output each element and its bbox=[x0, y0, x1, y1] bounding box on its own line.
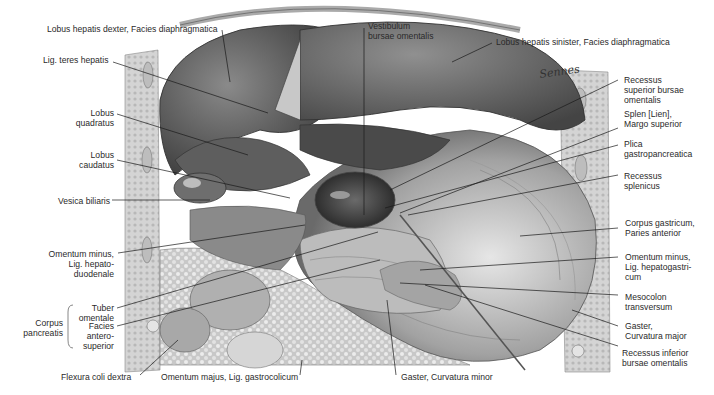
label-splen: Splen [Lien], Margo superior bbox=[624, 109, 682, 129]
label-omentum-minus-hepatogastricum: Omentum minus, Lig. hepatogastri- cum bbox=[625, 252, 691, 282]
label-tuber-omentale: Tuber omentale bbox=[70, 303, 114, 323]
anatomy-figure: Sennes Lobu bbox=[0, 0, 714, 395]
bursa-omentalis-opening bbox=[315, 172, 395, 228]
label-facies-anterosuperior: Facies antero- superior bbox=[70, 321, 114, 351]
label-lobus-caudatus: Lobus caudatus bbox=[70, 150, 114, 170]
label-vesica-biliaris: Vesica biliaris bbox=[40, 196, 110, 206]
label-omentum-majus: Omentum majus, Lig. gastrocolicum bbox=[161, 372, 298, 382]
label-recessus-superior: Recessus superior bursae omentalis bbox=[624, 75, 684, 105]
label-vestibulum: Vestibulum bursae omentalis bbox=[368, 21, 433, 41]
label-lobus-quadratus: Lobus quadratus bbox=[70, 108, 114, 128]
label-gaster-curvatura-minor: Gaster, Curvatura minor bbox=[401, 372, 493, 382]
gallbladder bbox=[174, 173, 226, 203]
label-plica: Plica gastropancreatica bbox=[624, 139, 692, 159]
label-lobus-hepatis-dexter: Lobus hepatis dexter, Facies diaphragmat… bbox=[47, 24, 218, 34]
label-gaster-curvatura-major: Gaster, Curvatura major bbox=[625, 321, 687, 341]
label-mesocolon: Mesocolon transversum bbox=[625, 292, 672, 312]
label-recessus-splenicus: Recessus splenicus bbox=[624, 171, 662, 191]
label-omentum-minus-hepatoduodenale: Omentum minus, Lig. hepato- duodenale bbox=[30, 249, 114, 279]
label-corpus-gastricum: Corpus gastricum, Paries anterior bbox=[625, 218, 695, 238]
label-lobus-hepatis-sinister: Lobus hepatis sinister, Facies diaphragm… bbox=[496, 37, 670, 47]
label-lig-teres: Lig. teres hepatis bbox=[43, 55, 108, 65]
label-flexura-coli-dextra: Flexura coli dextra bbox=[61, 372, 131, 382]
label-recessus-inferior: Recessus inferior bursae omentalis bbox=[622, 348, 688, 368]
label-corpus-pancreatis: Corpus pancreatis bbox=[15, 318, 63, 338]
